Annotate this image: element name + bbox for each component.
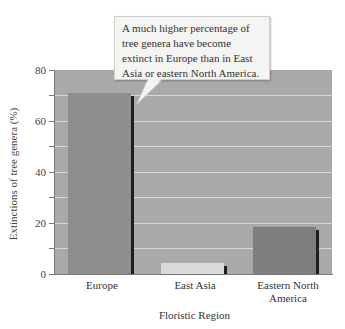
annotation-callout: A much higher percentage of tree genera … (114, 16, 270, 80)
